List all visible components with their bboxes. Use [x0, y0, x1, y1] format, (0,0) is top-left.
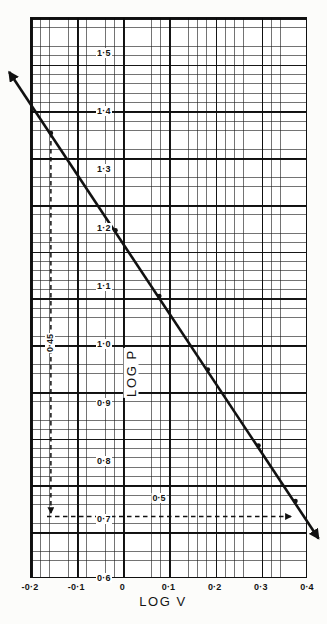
y-tick-label: 1·3 [96, 164, 112, 174]
y-tick-label: 0·7 [96, 514, 112, 524]
x-axis-title: LOG V [139, 594, 187, 609]
rise-annotation-label: 0·45 [45, 333, 55, 353]
major-gridlines [31, 18, 306, 577]
x-tick-label: -0·2 [22, 582, 39, 592]
x-tick-label: 0·1 [162, 582, 176, 592]
minor-gridlines [31, 18, 306, 577]
y-tick-label: 1·4 [96, 106, 112, 116]
chart-figure: -0·2 -0·1 0 0·1 0·2 0·3 0·4 0·6 0·7 0·8 … [0, 0, 327, 624]
y-tick-label: 0·9 [96, 398, 112, 408]
y-tick-label: 1·1 [96, 281, 112, 291]
x-tick-label: 0 [120, 582, 125, 592]
y-axis-title: LOG P [124, 348, 139, 398]
run-annotation-label: 0·5 [151, 493, 166, 503]
x-tick-label: 0·4 [300, 582, 314, 592]
x-tick-label: 0·3 [254, 582, 268, 592]
y-tick-label: 1·0 [96, 339, 112, 349]
y-tick-label: 1·5 [96, 48, 112, 58]
y-tick-label: 0·6 [96, 573, 112, 583]
plot-area [30, 17, 307, 578]
x-tick-label: -0·1 [68, 582, 85, 592]
y-tick-label: 1·2 [96, 223, 112, 233]
y-tick-label: 0·8 [96, 456, 112, 466]
x-tick-label: 0·2 [208, 582, 222, 592]
